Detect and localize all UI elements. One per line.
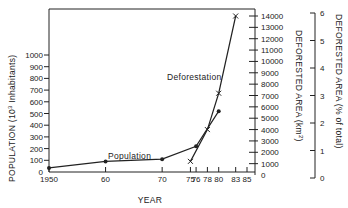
series [47, 14, 238, 170]
tick-labels: 0100200300400500600700800900100001000200… [25, 9, 325, 184]
svg-text:2: 2 [320, 119, 325, 128]
svg-text:70: 70 [158, 175, 167, 184]
svg-text:0: 0 [320, 174, 325, 183]
y-axis-label-far-right: DEFORESTED AREA (% of total) [334, 14, 344, 149]
svg-text:60: 60 [101, 175, 110, 184]
data-point [104, 159, 108, 163]
svg-text:600: 600 [30, 98, 44, 107]
svg-text:6000: 6000 [261, 103, 279, 112]
series-label-deforestation: Deforestation [167, 72, 221, 82]
svg-text:5: 5 [320, 37, 325, 46]
svg-text:100: 100 [30, 156, 44, 165]
svg-text:76: 76 [192, 175, 201, 184]
svg-text:78: 78 [203, 175, 212, 184]
data-point [47, 166, 51, 170]
chart: 0100200300400500600700800900100001000200… [0, 0, 348, 208]
svg-text:83: 83 [231, 175, 240, 184]
x-marker [188, 159, 193, 164]
svg-text:700: 700 [30, 86, 44, 95]
svg-text:12000: 12000 [261, 35, 284, 44]
svg-text:3: 3 [320, 92, 325, 101]
svg-text:1000: 1000 [25, 51, 43, 60]
data-point [160, 157, 164, 161]
svg-text:4000: 4000 [261, 126, 279, 135]
svg-text:5000: 5000 [261, 114, 279, 123]
series-line-deforestation [190, 16, 235, 161]
svg-text:80: 80 [214, 175, 223, 184]
svg-text:10000: 10000 [261, 57, 284, 66]
series-label-population: Population [108, 151, 151, 161]
svg-text:7000: 7000 [261, 92, 279, 101]
svg-text:4: 4 [320, 64, 325, 73]
x-axis-label: YEAR [138, 195, 162, 205]
svg-text:0: 0 [261, 171, 266, 180]
y-axis-label-left: POPULATION (103 Inhabitants) [7, 55, 17, 182]
svg-text:400: 400 [30, 121, 44, 130]
svg-text:3000: 3000 [261, 137, 279, 146]
svg-text:11000: 11000 [261, 46, 283, 55]
svg-text:500: 500 [30, 110, 44, 119]
svg-text:1000: 1000 [261, 160, 279, 169]
svg-text:1: 1 [320, 147, 325, 156]
svg-text:800: 800 [30, 74, 44, 83]
data-point [217, 109, 221, 113]
svg-text:9000: 9000 [261, 69, 279, 78]
svg-text:200: 200 [30, 145, 44, 154]
y-axis-label-right: DEFORESTED AREA (km2) [294, 30, 304, 142]
svg-text:2000: 2000 [261, 148, 279, 157]
svg-text:85: 85 [243, 175, 252, 184]
svg-text:1950: 1950 [40, 175, 58, 184]
svg-text:13000: 13000 [261, 23, 284, 32]
svg-text:300: 300 [30, 133, 44, 142]
svg-text:6: 6 [320, 9, 325, 18]
svg-text:14000: 14000 [261, 12, 284, 21]
svg-text:8000: 8000 [261, 80, 279, 89]
svg-text:900: 900 [30, 63, 44, 72]
